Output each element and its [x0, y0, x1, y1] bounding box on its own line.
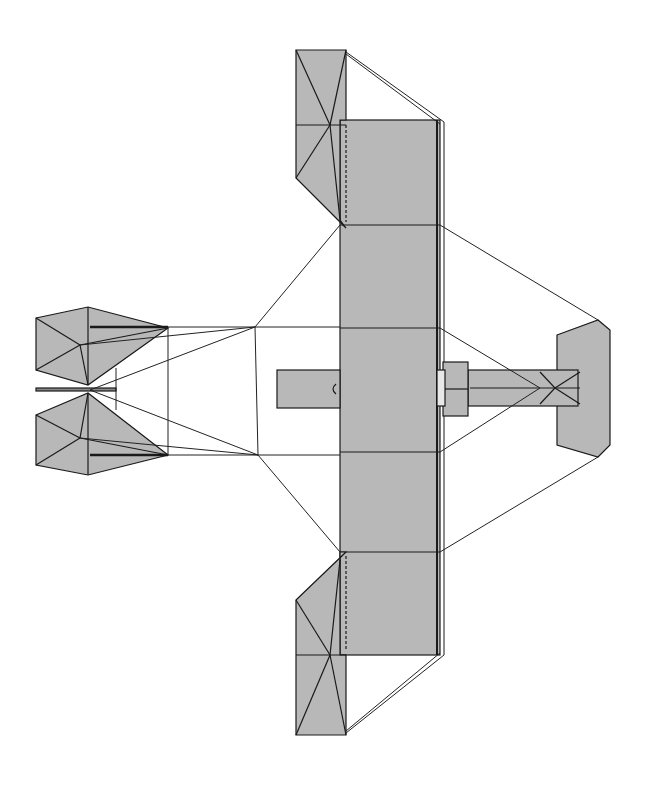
center-fin — [277, 370, 340, 408]
front-elevator-top — [36, 307, 168, 385]
nose-bar — [36, 388, 116, 391]
front-elevator-bottom — [36, 393, 168, 475]
engine-mount — [437, 362, 468, 416]
aircraft-plan-drawing — [0, 0, 647, 788]
tail-boom — [468, 370, 580, 406]
top-wingtip-aileron — [296, 50, 346, 228]
main-wing — [340, 120, 444, 655]
bottom-wingtip-aileron — [296, 552, 346, 735]
